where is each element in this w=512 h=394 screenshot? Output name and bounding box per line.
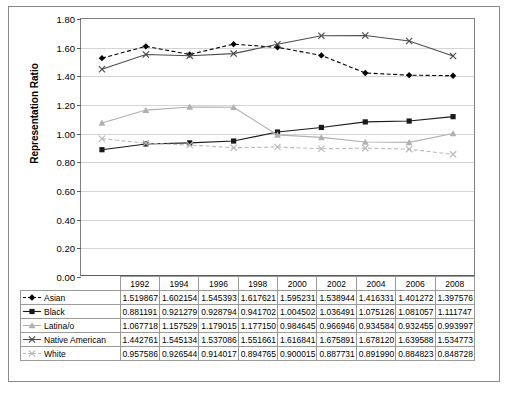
table-cell-value: 1.111747: [435, 305, 475, 319]
data-point-marker: [231, 145, 237, 151]
table-cell-value: 1.551661: [238, 333, 277, 347]
series-layer: [80, 18, 475, 276]
legend-series-name: Native American: [44, 335, 106, 345]
legend-series-name: Asian: [44, 293, 65, 303]
table-cell-value: 1.075126: [356, 305, 395, 319]
legend-marker-icon: [23, 321, 41, 330]
table-header-year: 1996: [199, 277, 238, 291]
data-point-marker: [318, 52, 324, 58]
table-cell-value: 1.545393: [199, 291, 238, 305]
legend-series-name: Black: [44, 307, 65, 317]
table-header-year: 2000: [278, 277, 317, 291]
data-point-marker: [187, 51, 193, 57]
table-header-year: 1992: [120, 277, 159, 291]
table-cell-value: 0.934584: [356, 319, 395, 333]
table-cell-value: 1.602154: [159, 291, 198, 305]
table-cell-value: 0.926544: [159, 347, 198, 361]
table-header-row: 199219941996199820002002200420062008: [21, 277, 475, 291]
table-cell-value: 0.993997: [435, 319, 475, 333]
table-cell-value: 0.848728: [435, 347, 475, 361]
table-header-year: 2004: [356, 277, 395, 291]
table-cell-value: 1.036491: [317, 305, 356, 319]
table-cell-value: 0.984645: [278, 319, 317, 333]
table-cell-value: 1.617621: [238, 291, 277, 305]
series-white: [99, 136, 456, 158]
table-row: White0.9575860.9265440.9140170.8947650.9…: [21, 347, 475, 361]
table-cell-value: 0.900015: [278, 347, 317, 361]
table-cell-value: 1.675891: [317, 333, 356, 347]
y-axis-tick-label: 1.20: [29, 100, 75, 111]
table-cell-value: 1.538944: [317, 291, 356, 305]
table-cell-value: 0.914017: [199, 347, 238, 361]
table-cell-value: 0.891990: [356, 347, 395, 361]
data-point-marker: [450, 72, 456, 78]
table-cell-value: 1.401272: [396, 291, 435, 305]
data-point-marker: [450, 114, 455, 119]
table-cell-value: 1.067718: [120, 319, 159, 333]
data-point-marker: [363, 119, 368, 124]
table-header-year: 1998: [238, 277, 277, 291]
data-point-marker: [230, 41, 236, 47]
data-point-marker: [406, 146, 412, 152]
table-cell-value: 1.397576: [435, 291, 475, 305]
table-body: Asian1.5198671.6021541.5453931.6176211.5…: [21, 291, 475, 361]
series-latina-o: [99, 104, 457, 146]
y-axis-tick-label: 1.00: [29, 128, 75, 139]
data-table-wrapper: 199219941996199820002002200420062008 Asi…: [20, 276, 475, 361]
plot-wrapper: 0.000.200.400.600.801.001.201.401.601.80: [80, 18, 475, 276]
table-cell-value: 0.884823: [396, 347, 435, 361]
table-header-year: 2008: [435, 277, 475, 291]
data-point-marker: [362, 70, 368, 76]
table-cell-value: 1.616841: [278, 333, 317, 347]
table-cell-value: 1.639588: [396, 333, 435, 347]
table-row-legend-label: Black: [21, 305, 121, 319]
data-point-marker: [407, 118, 412, 123]
table-cell-value: 1.534773: [435, 333, 475, 347]
table-cell-value: 1.179015: [199, 319, 238, 333]
table-row: Latina/o1.0677181.1575291.1790151.177150…: [21, 319, 475, 333]
data-point-marker: [99, 66, 105, 72]
y-axis-tick-label: 0.80: [29, 157, 75, 168]
table-row-legend-label: Native American: [21, 333, 121, 347]
legend-series-name: White: [44, 349, 66, 359]
chart-screenshot: Representation Ratio 0.000.200.400.600.8…: [0, 0, 512, 394]
data-point-marker: [99, 147, 104, 152]
table-cell-value: 1.177150: [238, 319, 277, 333]
table-cell-value: 0.921279: [159, 305, 198, 319]
legend-marker-icon: [23, 293, 41, 302]
table-header-year: 2006: [396, 277, 435, 291]
table-cell-value: 1.416331: [356, 291, 395, 305]
data-point-marker: [406, 72, 412, 78]
y-axis-tick-label: 0.20: [29, 243, 75, 254]
table-row-legend-label: Asian: [21, 291, 121, 305]
table-cell-value: 0.957586: [120, 347, 159, 361]
data-point-marker: [450, 151, 456, 157]
data-point-marker: [450, 53, 456, 59]
table-header-year: 1994: [159, 277, 198, 291]
table-row: Black0.8811910.9212790.9287940.9417021.0…: [21, 305, 475, 319]
table-row: Native American1.4427611.5451341.5370861…: [21, 333, 475, 347]
data-table: 199219941996199820002002200420062008 Asi…: [20, 276, 475, 361]
table-cell-value: 0.928794: [199, 305, 238, 319]
legend-series-name: Latina/o: [44, 321, 74, 331]
y-axis-tick-label: 1.40: [29, 71, 75, 82]
y-axis-tick-label: 0.40: [29, 214, 75, 225]
data-point-marker: [319, 125, 324, 130]
table-cell-value: 1.004502: [278, 305, 317, 319]
data-point-marker: [231, 138, 236, 143]
table-cell-value: 1.678120: [356, 333, 395, 347]
table-row-legend-label: Latina/o: [21, 319, 121, 333]
series-line: [102, 35, 453, 69]
data-point-marker: [143, 43, 149, 49]
table-cell-value: 1.081057: [396, 305, 435, 319]
table-cell-value: 1.545134: [159, 333, 198, 347]
table-cell-value: 0.941702: [238, 305, 277, 319]
table-cell-value: 1.519867: [120, 291, 159, 305]
table-cell-value: 0.966946: [317, 319, 356, 333]
table-cell-value: 0.932455: [396, 319, 435, 333]
table-row: Asian1.5198671.6021541.5453931.6176211.5…: [21, 291, 475, 305]
table-header: 199219941996199820002002200420062008: [21, 277, 475, 291]
table-cell-value: 1.442761: [120, 333, 159, 347]
data-point-marker: [450, 130, 457, 136]
legend-marker-icon: [23, 349, 41, 358]
